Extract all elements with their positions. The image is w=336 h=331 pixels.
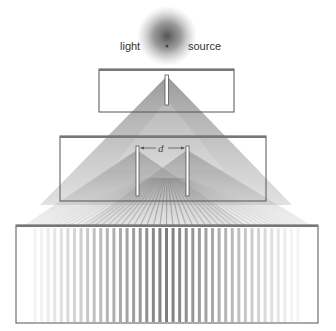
label-source: source [188,40,221,52]
screen [16,225,318,323]
single-slit-barrier [99,69,234,112]
label-light: light [120,40,140,52]
double-slit-diagram: light source d [0,0,336,331]
interference-fringes [34,228,300,322]
right-slit [186,146,189,196]
light-source [137,6,197,66]
double-slit-barrier: d [60,136,266,201]
slit-spacing-label: d [158,142,164,154]
single-slit [165,75,169,105]
left-slit [136,146,139,196]
